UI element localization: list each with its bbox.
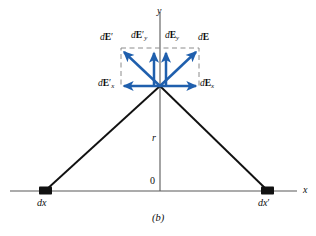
left-charge-square xyxy=(39,187,52,195)
label-dE: dE xyxy=(198,33,209,44)
distance-r-label: r xyxy=(152,133,156,143)
origin-label: 0 xyxy=(150,176,155,186)
left-charge-label: dx xyxy=(37,198,46,208)
y-axis-label: y xyxy=(157,6,161,16)
right-charge-label: dx′ xyxy=(258,198,270,208)
right-ray xyxy=(160,86,267,190)
label-dE-prime: dE′ xyxy=(100,33,113,44)
label-dE-x: dEx xyxy=(200,79,214,90)
right-charge-square xyxy=(261,187,274,195)
label-dE-prime-x: dE′x xyxy=(98,79,114,90)
label-dE-prime-y: dE′y xyxy=(131,31,147,42)
left-ray xyxy=(46,86,160,190)
figure-caption: (b) xyxy=(152,213,164,224)
physics-figure: y x 0 r dx dx′ dE′ dE′y dEy dE dE′x dEx … xyxy=(0,0,316,236)
label-dE-y: dEy xyxy=(165,31,179,42)
x-axis-label: x xyxy=(303,185,307,195)
